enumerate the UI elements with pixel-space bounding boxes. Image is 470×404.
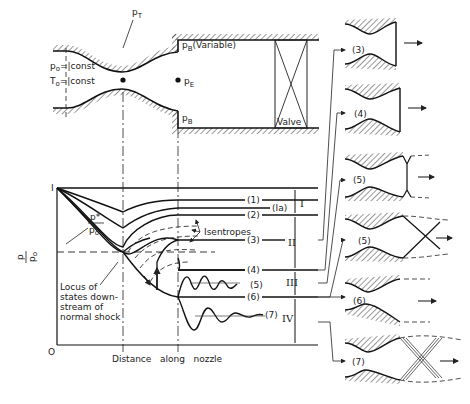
throat-pressure-label: pT — [132, 7, 143, 20]
curve-label-6: (6) — [247, 292, 260, 302]
nozzle-flow-diagram: po=|const To=|const pT pE pB(Variable) p… — [0, 0, 470, 404]
sketch-6: (6) — [345, 275, 436, 326]
y-tick-1: I — [51, 183, 54, 193]
exit-point — [175, 77, 180, 82]
region-II: II — [288, 237, 296, 248]
curve-label-4: (4) — [247, 265, 260, 275]
svg-text:p: p — [15, 254, 25, 260]
sketch-7: (7) — [345, 334, 462, 384]
curve-label-1a: (Ia) — [272, 203, 287, 213]
sketch-4: (4) — [345, 83, 426, 136]
svg-text:po: po — [27, 252, 39, 262]
locus-label-line-1: Locus of — [60, 282, 98, 292]
locus-label-line-4: normal shock — [60, 312, 121, 322]
valve-label: Valve — [277, 117, 302, 127]
connectors — [318, 50, 345, 361]
sketch-6-label: (6) — [353, 296, 366, 306]
locus-label-line-2: states down- — [60, 292, 118, 302]
sketch-7-label: (7) — [352, 357, 365, 367]
exit-pressure-label: pE — [184, 76, 194, 89]
back-pressure-top-label: pB(Variable) — [182, 40, 236, 53]
y-tick-0: O — [48, 347, 55, 357]
p0-label: po=|const — [50, 61, 95, 73]
curve-label-5: (5) — [250, 280, 263, 290]
curve-label-1: (1) — [247, 195, 260, 205]
region-I: I — [300, 198, 304, 209]
sketch-3-label: (3) — [352, 45, 365, 55]
curve-5 — [178, 276, 237, 297]
sketch-3: (3) — [345, 18, 422, 70]
sketch-5b-label: (5) — [358, 236, 371, 246]
sketch-5b: (5) — [345, 212, 452, 262]
curve-label-3: (3) — [247, 235, 260, 245]
curve-4 — [178, 258, 245, 270]
T0-label: To=|const — [49, 76, 95, 88]
y-axis-label: p po — [15, 251, 39, 263]
back-pressure-bottom-label: pB — [182, 113, 193, 126]
x-axis-label: Distance along nozzle — [112, 354, 223, 364]
isentropes-label: Isentropes — [204, 227, 251, 237]
sketch-5a-label: (5) — [353, 175, 366, 185]
sketch-5a: (5) — [345, 152, 434, 201]
pressure-graph: I O p po p* po — [15, 183, 318, 364]
curve-label-7: (7) — [265, 310, 278, 320]
throat-point — [120, 77, 125, 82]
region-IV: IV — [282, 313, 294, 324]
sketch-4-label: (4) — [354, 109, 367, 119]
locus-label-line-3: stream of — [60, 302, 104, 312]
curve-label-2: (2) — [247, 210, 260, 220]
svg-text:p*: p* — [90, 212, 101, 222]
nozzle-schematic: po=|const To=|const pT pE pB(Variable) p… — [49, 7, 319, 134]
valve — [275, 40, 307, 128]
region-III: III — [286, 277, 298, 288]
